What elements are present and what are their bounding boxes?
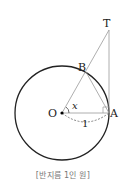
- label-T: T: [103, 17, 111, 30]
- center-point: [60, 111, 63, 114]
- diagram-caption: [반지름 1인 원]: [0, 169, 126, 180]
- angle-arc-x: [66, 107, 69, 113]
- label-A: A: [109, 107, 119, 120]
- unit-circle-diagram: O A B T x 1: [0, 0, 126, 188]
- label-radius-1: 1: [82, 118, 88, 129]
- label-O: O: [48, 107, 57, 120]
- label-B: B: [78, 61, 86, 74]
- label-angle-x: x: [72, 100, 78, 111]
